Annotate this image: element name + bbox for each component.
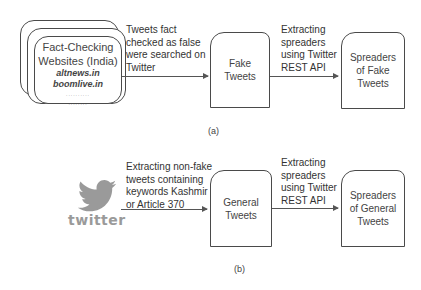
site-boomlive: boomlive.in xyxy=(35,79,121,90)
twitter-logo: twitter xyxy=(66,180,122,228)
arrow-to-fake-tweets xyxy=(122,76,208,77)
fact-checking-websites-card: Fact-Checking Websites (India) altnews.i… xyxy=(34,36,122,104)
caption-b: (b) xyxy=(234,264,245,274)
node-general-tweets: General Tweets xyxy=(210,170,272,247)
twitter-bird-icon xyxy=(77,180,117,212)
ellipsis-2: ........ xyxy=(35,99,121,108)
edge-label-extract-spreaders-b: Extracting spreaders using Twitter REST … xyxy=(281,157,337,207)
source-subtitle: Websites (India) xyxy=(35,54,121,68)
node-fake-tweets: Fake Tweets xyxy=(210,32,270,108)
edge-label-extract-spreaders-a: Extracting spreaders using Twitter REST … xyxy=(281,24,337,74)
caption-a: (a) xyxy=(208,126,219,136)
ellipsis-1: .......... xyxy=(35,90,121,99)
arrow-to-general-tweets xyxy=(121,209,207,210)
arrow-to-spreaders-general xyxy=(272,208,338,209)
arrow-to-spreaders-fake xyxy=(270,76,338,77)
edge-label-search: Tweets fact checked as false were search… xyxy=(126,24,206,74)
site-altnews: altnews.in xyxy=(35,68,121,79)
node-spreaders-general-tweets: Spreaders of General Tweets xyxy=(341,170,405,247)
twitter-wordmark: twitter xyxy=(68,212,126,228)
edge-label-extract-general: Extracting non-fake tweets containing ke… xyxy=(126,161,212,211)
node-spreaders-fake-tweets: Spreaders of Fake Tweets xyxy=(341,32,405,109)
source-title: Fact-Checking xyxy=(35,40,121,54)
